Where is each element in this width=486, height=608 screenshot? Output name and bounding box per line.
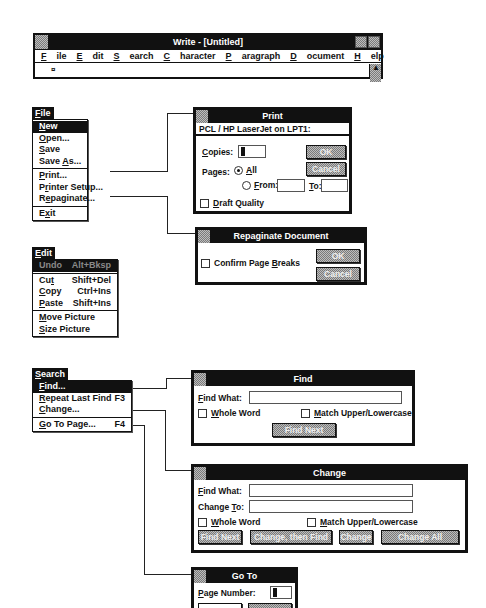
menu-separator	[33, 273, 117, 274]
menu-item-save-as[interactable]: Save As...	[33, 156, 87, 168]
file-menu-dropdown: New Open... Save Save As... Print... Pri…	[32, 119, 88, 221]
menu-paragraph[interactable]: Paragraph	[226, 50, 281, 62]
search-menu-group: Search Find... Repeat Last FindF3 Change…	[32, 368, 132, 432]
menu-item-print[interactable]: Print...	[33, 170, 87, 182]
system-menu-icon[interactable]	[194, 570, 207, 583]
menu-item-find[interactable]: Find...	[33, 381, 131, 393]
from-radio[interactable]: From:	[242, 180, 278, 190]
confirm-page-breaks-checkbox[interactable]: Confirm Page Breaks	[201, 258, 300, 268]
menu-search[interactable]: Search	[114, 50, 154, 62]
edit-menu-group: Edit UndoAlt+Bksp CutShift+Del CopyCtrl+…	[32, 247, 118, 337]
change-then-find-button[interactable]: Change, then Find	[250, 530, 332, 544]
whole-word-checkbox[interactable]: Whole Word	[198, 517, 260, 527]
menu-character[interactable]: Character	[164, 50, 216, 62]
title-bar: Write - [Untitled]	[35, 35, 381, 50]
connector-line	[167, 233, 195, 234]
menu-item-repeat-last-find[interactable]: Repeat Last FindF3	[33, 393, 131, 405]
all-radio[interactable]: All	[234, 165, 257, 175]
edit-menu-title[interactable]: Edit	[32, 247, 55, 259]
ok-button[interactable]: OK	[316, 249, 360, 263]
end-mark: ¤	[51, 65, 55, 74]
change-all-button[interactable]: Change All	[381, 530, 459, 544]
menu-item-printer-setup[interactable]: Printer Setup...	[33, 182, 87, 194]
menu-item-copy[interactable]: CopyCtrl+Ins	[33, 286, 117, 298]
connector-line	[110, 196, 168, 197]
connector-line	[144, 574, 192, 575]
document-area[interactable]: ¤	[35, 64, 369, 77]
vertical-scrollbar[interactable]: ▲	[369, 64, 381, 77]
menu-item-go-to-page[interactable]: Go To Page...F4	[33, 419, 131, 431]
menu-document[interactable]: Document	[290, 50, 344, 62]
connector-line	[110, 171, 168, 172]
connector-line	[166, 378, 167, 389]
go-to-dialog: Go To Page Number:	[191, 567, 298, 608]
file-menu-group: File New Open... Save Save As... Print..…	[32, 107, 88, 221]
match-case-checkbox[interactable]: Match Upper/Lowercase	[307, 517, 418, 527]
window-title: Write - [Untitled]	[173, 37, 243, 47]
maximize-icon[interactable]	[368, 36, 380, 48]
system-menu-icon[interactable]	[198, 230, 211, 243]
edit-menu-dropdown: UndoAlt+Bksp CutShift+Del CopyCtrl+Ins P…	[32, 259, 118, 337]
search-menu-dropdown: Find... Repeat Last FindF3 Change... Go …	[32, 380, 132, 432]
scroll-up-arrow-icon[interactable]: ▲	[370, 64, 381, 76]
to-input[interactable]	[321, 179, 348, 192]
menu-item-exit[interactable]: Exit	[33, 208, 87, 220]
system-menu-icon[interactable]	[196, 110, 209, 123]
minimize-icon[interactable]	[355, 36, 367, 48]
menu-item-paste[interactable]: PasteShift+Ins	[33, 298, 117, 310]
menu-item-repaginate[interactable]: Repaginate...	[33, 193, 87, 205]
find-what-input[interactable]	[249, 391, 402, 404]
dialog-title: Find	[294, 374, 313, 384]
menu-file[interactable]: File	[41, 50, 67, 62]
print-dialog: Print PCL / HP LaserJet on LPT1: Copies:…	[193, 107, 352, 214]
cancel-button[interactable]: Cancel	[316, 267, 360, 281]
match-case-checkbox[interactable]: Match Upper/Lowercase	[301, 408, 412, 418]
menu-help[interactable]: Help	[354, 50, 384, 62]
printer-name: PCL / HP LaserJet on LPT1:	[196, 123, 349, 136]
cancel-button[interactable]: Cancel	[306, 162, 346, 176]
connector-line	[165, 410, 166, 471]
find-dialog: Find Find What: Whole Word Match Upper/L…	[191, 370, 415, 446]
menu-item-open[interactable]: Open...	[33, 133, 87, 145]
menu-item-change[interactable]: Change...	[33, 404, 131, 416]
page-number-input[interactable]	[270, 586, 292, 599]
scrollbar-track[interactable]	[370, 76, 381, 82]
search-menu-title[interactable]: Search	[32, 368, 68, 380]
menu-item-cut[interactable]: CutShift+Del	[33, 275, 117, 287]
whole-word-checkbox[interactable]: Whole Word	[198, 408, 260, 418]
find-next-button[interactable]: Find Next	[272, 423, 336, 437]
copies-input[interactable]	[238, 145, 266, 158]
cancel-button[interactable]	[248, 603, 292, 608]
find-what-input[interactable]	[249, 484, 413, 497]
connector-line	[133, 410, 166, 411]
ok-button[interactable]	[198, 603, 242, 608]
connector-line	[167, 113, 168, 172]
draft-quality-checkbox[interactable]: Draft Quality	[200, 198, 264, 208]
connector-line	[167, 113, 194, 114]
from-input[interactable]	[277, 179, 305, 192]
menu-separator	[33, 310, 117, 311]
change-to-label: Change To:	[198, 502, 244, 512]
menu-item-size-picture[interactable]: Size Picture	[33, 324, 117, 336]
dialog-title-bar: Print	[196, 110, 349, 123]
system-menu-icon[interactable]	[194, 373, 207, 386]
ok-button[interactable]: OK	[306, 145, 346, 159]
connector-line	[144, 425, 145, 575]
menu-item-save[interactable]: Save	[33, 144, 87, 156]
dialog-title: Print	[262, 111, 283, 121]
menu-bar: File Edit Search Character Paragraph Doc…	[35, 50, 381, 63]
find-next-button[interactable]: Find Next	[198, 530, 242, 544]
menu-separator	[33, 168, 87, 169]
find-what-label: Find What:	[198, 486, 242, 496]
to-label: To:	[309, 181, 322, 191]
system-menu-icon[interactable]	[194, 467, 207, 480]
menu-item-new[interactable]: New	[33, 121, 87, 133]
system-menu-icon[interactable]	[35, 35, 49, 49]
menu-item-move-picture[interactable]: Move Picture	[33, 312, 117, 324]
dialog-title: Change	[313, 468, 346, 478]
file-menu-title[interactable]: File	[32, 107, 54, 119]
menu-edit[interactable]: Edit	[77, 50, 104, 62]
change-to-input[interactable]	[249, 500, 413, 513]
change-button[interactable]: Change	[339, 530, 373, 544]
menu-item-undo[interactable]: UndoAlt+Bksp	[33, 260, 117, 272]
